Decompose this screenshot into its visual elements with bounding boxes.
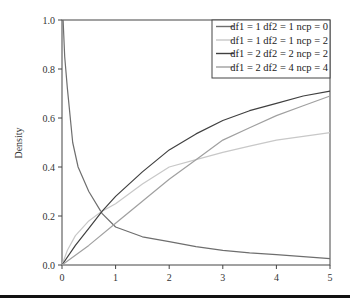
y-tick-label: 0.0 — [43, 260, 56, 271]
x-axis: 012345 — [60, 265, 333, 283]
y-axis-title: Density — [13, 127, 24, 158]
legend-label: df1 = 2 df2 = 2 ncp = 2 — [230, 48, 328, 59]
bottom-rule — [0, 295, 350, 298]
y-tick-label: 0.6 — [43, 113, 56, 124]
legend-label: df1 = 2 df2 = 4 ncp = 4 — [230, 62, 328, 73]
series-line-4 — [62, 96, 330, 265]
y-axis: 0.00.20.40.60.81.0 — [43, 15, 63, 271]
legend: df1 = 1 df2 = 1 ncp = 0df1 = 1 df2 = 1 n… — [212, 20, 330, 78]
series-line-2 — [62, 133, 330, 265]
y-tick-label: 0.8 — [43, 64, 56, 75]
x-tick-label: 3 — [220, 272, 225, 283]
legend-label: df1 = 1 df2 = 1 ncp = 2 — [230, 35, 328, 46]
x-tick-label: 4 — [274, 272, 279, 283]
x-tick-label: 2 — [167, 272, 172, 283]
density-chart: 0.00.20.40.60.81.0 012345 Density df1 = … — [0, 0, 350, 303]
y-tick-label: 0.4 — [43, 162, 56, 173]
x-tick-label: 5 — [328, 272, 333, 283]
series-line-3 — [62, 91, 330, 265]
y-tick-label: 0.2 — [43, 211, 56, 222]
x-tick-label: 0 — [60, 272, 65, 283]
y-tick-label: 1.0 — [43, 15, 56, 26]
legend-label: df1 = 1 df2 = 1 ncp = 0 — [230, 21, 328, 32]
x-tick-label: 1 — [113, 272, 118, 283]
